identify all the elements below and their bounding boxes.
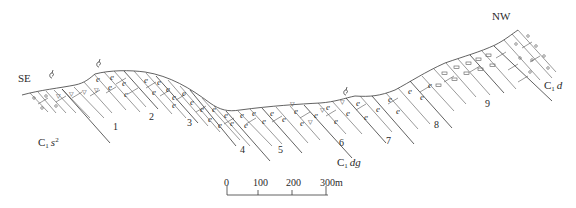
layer-number: 6 bbox=[339, 137, 344, 148]
svg-text:e: e bbox=[428, 80, 432, 90]
svg-text:e: e bbox=[252, 108, 256, 118]
scale-bar: 0 100 200 300m bbox=[224, 177, 343, 195]
svg-text:▽: ▽ bbox=[82, 88, 87, 95]
svg-text:e: e bbox=[294, 106, 298, 116]
svg-text:▽: ▽ bbox=[290, 100, 295, 107]
fossil-icon bbox=[50, 70, 54, 78]
scale-tick-300m: 300m bbox=[320, 177, 343, 188]
svg-text:e: e bbox=[364, 112, 368, 122]
formation-label-c1s2: C1s2 bbox=[38, 136, 59, 150]
lithology-symbols: ▽ ▽ ▽ ▽ e e e e e e e e e e e e e e e e … bbox=[33, 35, 550, 130]
svg-text:e: e bbox=[124, 89, 128, 99]
svg-text:e: e bbox=[300, 118, 304, 128]
svg-text:▽: ▽ bbox=[308, 118, 313, 125]
svg-text:e: e bbox=[262, 116, 266, 126]
layer-number: 8 bbox=[434, 119, 439, 130]
svg-text:▽: ▽ bbox=[94, 86, 99, 93]
layer-number: 9 bbox=[485, 98, 490, 109]
fossil-icon bbox=[344, 87, 348, 95]
bedding-ties bbox=[38, 42, 540, 124]
svg-text:e: e bbox=[356, 98, 360, 108]
cross-section-canvas: ▽ ▽ ▽ ▽ e e e e e e e e e e e e e e e e … bbox=[0, 0, 576, 208]
layer-number: 5 bbox=[278, 144, 283, 155]
svg-text:e: e bbox=[270, 108, 274, 118]
svg-text:e: e bbox=[200, 104, 204, 114]
svg-text:e: e bbox=[172, 100, 176, 110]
svg-text:▽: ▽ bbox=[340, 98, 345, 105]
layer-number: 4 bbox=[240, 144, 245, 155]
svg-text:e: e bbox=[244, 120, 248, 130]
svg-text:e: e bbox=[144, 75, 148, 85]
svg-text:▽: ▽ bbox=[320, 106, 325, 113]
svg-text:e: e bbox=[334, 116, 338, 126]
svg-text:e: e bbox=[388, 94, 392, 104]
svg-text:e: e bbox=[166, 84, 170, 94]
svg-text:e: e bbox=[396, 106, 400, 116]
layer-number: 7 bbox=[386, 135, 391, 146]
svg-text:e: e bbox=[346, 108, 350, 118]
svg-text:e: e bbox=[152, 87, 156, 97]
svg-text:e: e bbox=[224, 110, 228, 120]
formation-label-c1d: C1d bbox=[544, 79, 563, 93]
svg-text:e: e bbox=[190, 97, 194, 107]
svg-text:e: e bbox=[212, 104, 216, 114]
scale-tick-0: 0 bbox=[224, 177, 229, 188]
svg-text:e: e bbox=[326, 102, 330, 112]
scale-tick-100: 100 bbox=[253, 177, 268, 188]
svg-text:e: e bbox=[314, 110, 318, 120]
svg-text:e: e bbox=[122, 78, 126, 88]
svg-text:e: e bbox=[240, 110, 244, 120]
fossil-icon bbox=[97, 59, 101, 67]
direction-label-se: SE bbox=[18, 72, 31, 84]
svg-text:e: e bbox=[157, 77, 161, 87]
svg-text:▽: ▽ bbox=[56, 92, 61, 99]
svg-text:e: e bbox=[208, 114, 212, 124]
scale-tick-200: 200 bbox=[286, 177, 301, 188]
formation-label-c1dg: C1dg bbox=[337, 156, 361, 170]
topographic-profile bbox=[22, 30, 518, 111]
svg-text:e: e bbox=[108, 82, 112, 92]
svg-text:e: e bbox=[182, 88, 186, 98]
svg-text:e: e bbox=[420, 92, 424, 102]
layer-number: 1 bbox=[113, 121, 118, 132]
svg-text:▽: ▽ bbox=[69, 90, 74, 97]
layer-number: 2 bbox=[149, 111, 154, 122]
layer-number: 3 bbox=[187, 117, 192, 128]
svg-text:e: e bbox=[282, 114, 286, 124]
svg-text:e: e bbox=[218, 120, 222, 130]
svg-text:e: e bbox=[376, 104, 380, 114]
svg-text:e: e bbox=[408, 86, 412, 96]
strata-lines bbox=[30, 30, 556, 161]
svg-text:e: e bbox=[230, 118, 234, 128]
svg-text:e: e bbox=[96, 74, 100, 84]
direction-label-nw: NW bbox=[492, 10, 511, 22]
svg-text:e: e bbox=[110, 72, 114, 82]
